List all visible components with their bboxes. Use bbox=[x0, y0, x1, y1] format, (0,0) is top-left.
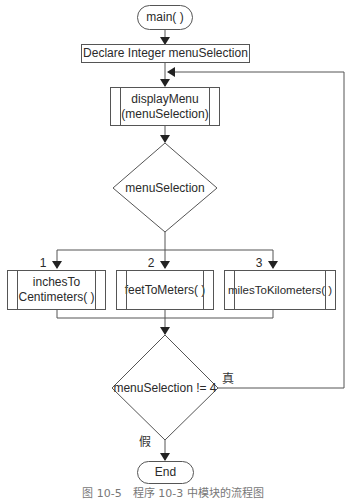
end-label: End bbox=[155, 465, 176, 480]
decision-menu-label: menuSelection bbox=[120, 181, 210, 195]
false-label: 假 bbox=[139, 432, 151, 449]
declare-process-box: Declare Integer menuSelection bbox=[81, 44, 250, 63]
figure-caption: 图 10-5 程序 10-3 中模块的流程图 bbox=[0, 484, 346, 500]
start-label: main( ) bbox=[146, 10, 183, 25]
display-menu-line2: (menuSelection) bbox=[121, 107, 208, 122]
true-label: 真 bbox=[222, 369, 234, 386]
module-1-line1: inchesTo bbox=[33, 275, 80, 290]
branch-label-2: 2 bbox=[146, 256, 156, 270]
module-feet-to-meters: feetToMeters( ) bbox=[116, 270, 214, 310]
module-1-line2: Centimeters( ) bbox=[18, 290, 94, 305]
start-terminal: main( ) bbox=[137, 5, 193, 30]
branch-label-1: 1 bbox=[38, 256, 48, 270]
module-3-line1: milesToKilometers( ) bbox=[228, 283, 332, 298]
display-menu-line1: displayMenu bbox=[131, 92, 198, 107]
module-miles-to-kilometers: milesToKilometers( ) bbox=[224, 270, 336, 310]
loop-decision-label: menuSelection != 4 bbox=[113, 381, 217, 395]
branch-label-3: 3 bbox=[254, 256, 264, 270]
module-inches-to-centimeters: inchesTo Centimeters( ) bbox=[7, 270, 106, 310]
end-terminal: End bbox=[137, 461, 194, 484]
declare-label: Declare Integer menuSelection bbox=[83, 46, 248, 61]
module-2-line1: feetToMeters( ) bbox=[125, 283, 206, 298]
display-menu-module: displayMenu (menuSelection) bbox=[110, 87, 220, 126]
